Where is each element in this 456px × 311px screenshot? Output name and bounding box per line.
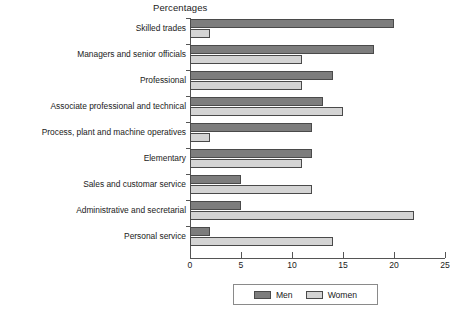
x-axis-tick-label: 0 (188, 260, 193, 270)
legend-swatch-women-icon (306, 291, 323, 299)
legend-label-men: Men (276, 290, 293, 300)
bar-women (190, 107, 343, 116)
category-row: Elementary (0, 148, 456, 174)
bar-women (190, 81, 302, 90)
bar-women (190, 237, 333, 246)
bar-men (190, 123, 312, 132)
bar-men (190, 45, 374, 54)
x-axis-tick (445, 252, 446, 258)
x-axis-tick (241, 252, 242, 258)
bar-women (190, 211, 414, 220)
bar-women (190, 159, 302, 168)
bar-women (190, 55, 302, 64)
category-label: Skilled trades (136, 23, 186, 33)
x-axis-tick-label: 25 (440, 260, 450, 270)
x-axis-tick-label: 15 (338, 260, 348, 270)
category-label: Sales and customar service (83, 179, 186, 189)
category-row: Professional (0, 70, 456, 96)
category-row: Process, plant and machine operatives (0, 122, 456, 148)
legend: Men Women (233, 284, 378, 305)
bar-men (190, 227, 210, 236)
x-axis-tick-label: 20 (389, 260, 399, 270)
bar-women (190, 29, 210, 38)
category-label: Process, plant and machine operatives (42, 127, 186, 137)
category-row: Managers and senior officials (0, 44, 456, 70)
bar-men (190, 97, 323, 106)
bar-chart: Percentages Skilled tradesManagers and s… (0, 0, 456, 311)
legend-label-women: Women (328, 290, 357, 300)
category-row: Sales and customar service (0, 174, 456, 200)
legend-item-men: Men (254, 290, 293, 300)
category-label: Elementary (144, 153, 186, 163)
bar-men (190, 175, 241, 184)
category-label: Managers and senior officials (77, 49, 186, 59)
x-axis-tick (190, 252, 191, 258)
category-row: Administrative and secretarial (0, 200, 456, 226)
bar-women (190, 185, 312, 194)
x-axis-tick (292, 252, 293, 258)
x-axis-tick (343, 252, 344, 258)
bar-men (190, 19, 394, 28)
category-row: Skilled trades (0, 18, 456, 44)
category-label: Administrative and secretarial (76, 205, 186, 215)
bar-women (190, 133, 210, 142)
x-axis-tick-label: 5 (239, 260, 244, 270)
category-row: Personal service (0, 226, 456, 252)
x-axis-line (190, 258, 445, 259)
bar-men (190, 71, 333, 80)
bar-men (190, 201, 241, 210)
x-axis-tick (394, 252, 395, 258)
category-row: Associate professional and technical (0, 96, 456, 122)
legend-swatch-men-icon (254, 291, 271, 299)
category-label: Professional (140, 75, 186, 85)
category-label: Associate professional and technical (51, 101, 186, 111)
chart-title: Percentages (153, 2, 207, 13)
category-label: Personal service (124, 231, 186, 241)
bar-men (190, 149, 312, 158)
legend-item-women: Women (306, 290, 357, 300)
x-axis-tick-label: 10 (287, 260, 297, 270)
